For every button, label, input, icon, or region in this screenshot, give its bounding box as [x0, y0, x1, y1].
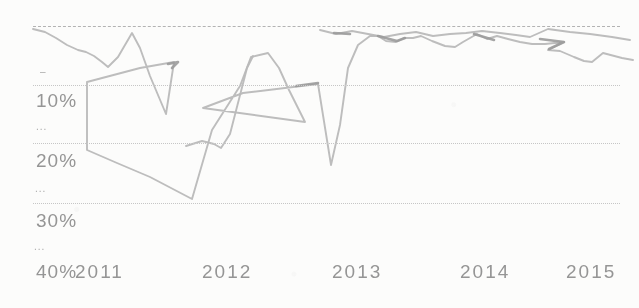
- scanned-line-chart: 10%20%30%40% –......... 2011201220132014…: [0, 0, 639, 308]
- gridline-20pct: [33, 143, 620, 144]
- trend-lines-group: [33, 29, 633, 199]
- x-axis-label-2013: 2013: [332, 262, 382, 282]
- y-axis-label-20pct: 20%: [36, 151, 77, 171]
- knot-2013-left: [334, 33, 350, 34]
- y-axis-label-30pct: 30%: [36, 211, 77, 231]
- trend-line-main-trend: [33, 29, 633, 199]
- x-axis-label-2015: 2015: [566, 262, 616, 282]
- gridline-10pct: [33, 85, 620, 86]
- x-axis-label-2014: 2014: [460, 262, 510, 282]
- gridline-0pct: [33, 26, 620, 27]
- x-axis-label-2011: 2011: [75, 262, 124, 282]
- y-axis-label-10pct: 10%: [36, 91, 77, 111]
- gridline-30pct: [33, 203, 620, 204]
- y-axis-minor-tick-2: ...: [35, 186, 46, 192]
- y-axis-minor-tick-1: ...: [36, 124, 47, 130]
- x-axis-label-2012: 2012: [202, 262, 252, 282]
- y-axis-label-40pct: 40%: [36, 262, 77, 282]
- y-axis-minor-tick-3: ...: [34, 244, 45, 250]
- y-axis-minor-tick-0: –: [40, 69, 47, 75]
